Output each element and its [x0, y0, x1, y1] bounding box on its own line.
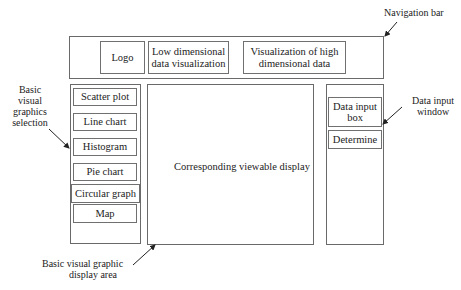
high-dim-label-line2: dimensional data [259, 58, 330, 70]
data-input-window-arrow-icon [383, 107, 402, 124]
sidebar-item-label: Line chart [84, 116, 127, 128]
annotation-window-line1: Data input [410, 95, 456, 106]
display-area-label: Corresponding viewable display [174, 161, 310, 172]
sidebar-item-circular-graph[interactable]: Circular graph [71, 184, 140, 203]
sidebar-item-label: Pie chart [86, 166, 123, 178]
annotation-display-line2: display area [42, 269, 138, 280]
logo-label: Logo [111, 52, 133, 64]
sidebar-item-label: Histogram [83, 141, 127, 153]
low-dim-label-line1: Low dimensional [152, 46, 225, 58]
annotation-selection-line3: graphics [6, 106, 54, 117]
sidebar-item-map[interactable]: Map [73, 204, 137, 223]
sidebar-item-line-chart[interactable]: Line chart [73, 113, 137, 131]
annotation-selection-line4: selection [6, 117, 54, 128]
low-dim-label-line2: data visualization [152, 58, 226, 70]
annotation-graphics-selection: Basic visual graphics selection [6, 84, 54, 128]
data-input-label-line1: Data input [333, 101, 377, 113]
annotation-data-input-window: Data input window [410, 95, 456, 117]
annotation-display-line1: Basic visual graphic [42, 258, 138, 269]
annotation-selection-line1: Basic [6, 84, 54, 95]
sidebar-item-histogram[interactable]: Histogram [73, 138, 137, 156]
determine-button[interactable]: Determine [328, 130, 382, 149]
sidebar-item-label: Scatter plot [81, 91, 129, 103]
sidebar-item-scatter-plot[interactable]: Scatter plot [73, 88, 137, 106]
annotation-window-line2: window [410, 106, 456, 117]
determine-label: Determine [333, 134, 377, 146]
annotation-selection-line2: visual [6, 95, 54, 106]
sidebar-item-pie-chart[interactable]: Pie chart [73, 163, 137, 181]
annotation-display-area: Basic visual graphic display area [42, 258, 138, 280]
data-input-label-line2: box [347, 112, 363, 124]
high-dim-label-line1: Visualization of high [250, 46, 338, 58]
logo[interactable]: Logo [100, 41, 145, 74]
sidebar-item-label: Map [95, 208, 114, 220]
sidebar-item-label: Circular graph [75, 188, 136, 200]
selection-arrow-icon [49, 129, 69, 148]
high-dimensional-visualization-tab[interactable]: Visualization of high dimensional data [243, 41, 346, 74]
data-input-box[interactable]: Data input box [328, 97, 382, 127]
annotation-navigation-bar: Navigation bar [384, 7, 444, 18]
low-dimensional-visualization-tab[interactable]: Low dimensional data visualization [148, 41, 229, 74]
navigation-bar-arrow-icon [385, 22, 397, 36]
